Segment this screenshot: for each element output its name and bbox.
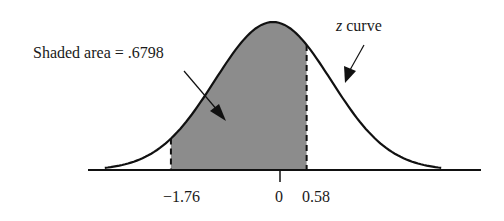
tick-label-0: 0 [275, 188, 283, 206]
curve-label: z curve [336, 17, 382, 35]
curve-label-arrow-head-icon [344, 66, 356, 83]
tick-label-neg-1-76: −1.76 [163, 188, 200, 206]
curve-label-arrow-line [350, 45, 364, 70]
tick-label-0-58: 0.58 [302, 188, 330, 206]
annotation-label: Shaded area = .6798 [33, 44, 164, 62]
z-curve-chart [0, 0, 504, 221]
